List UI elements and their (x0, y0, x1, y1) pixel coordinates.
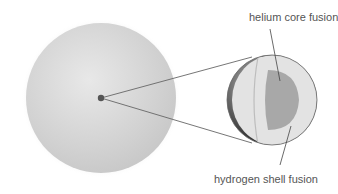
label-hydrogen-shell-fusion: hydrogen shell fusion (214, 173, 318, 185)
core-dot (98, 95, 104, 101)
label-helium-core-fusion: helium core fusion (249, 11, 338, 23)
cutaway-sphere (227, 55, 320, 145)
